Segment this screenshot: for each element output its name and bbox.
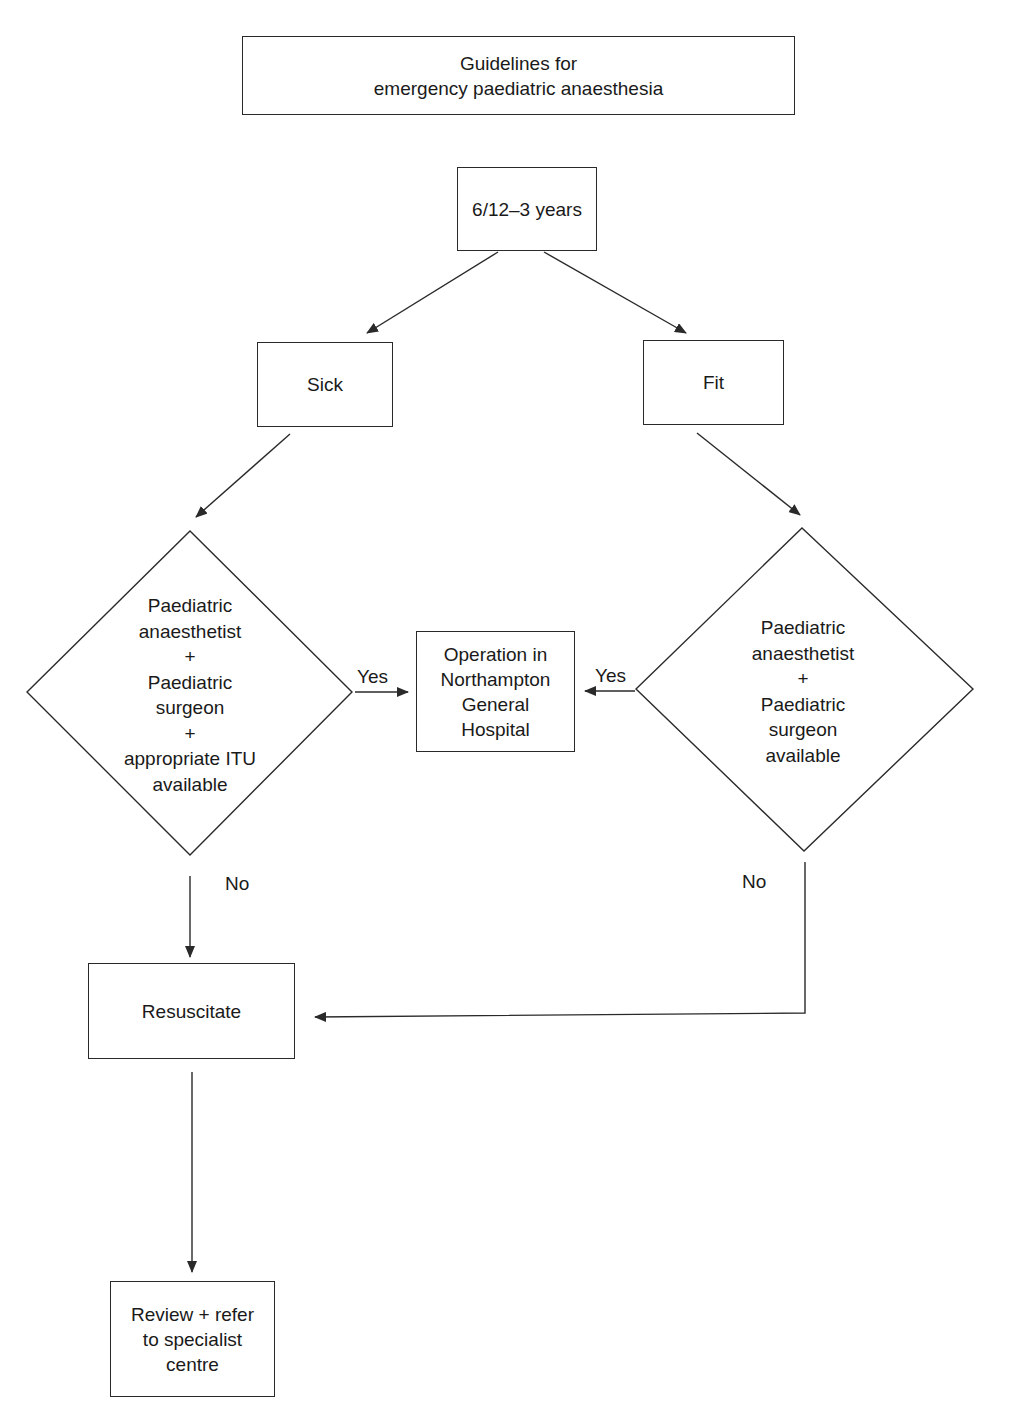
resuscitate-label: Resuscitate [142, 999, 241, 1024]
decision-sick-line: + [184, 721, 195, 747]
decision-sick-line: surgeon [156, 695, 225, 721]
sick-label: Sick [307, 372, 343, 397]
sick-node: Sick [257, 342, 393, 427]
review-line: centre [166, 1352, 219, 1377]
review-line: Review + refer [131, 1302, 254, 1327]
arrow-age-to-fit [544, 252, 686, 333]
decision-fit-line: Paediatric [761, 692, 846, 718]
decision-fit-line: anaesthetist [752, 641, 854, 667]
operation-line: Operation in [444, 642, 548, 667]
decision-sick-line: + [184, 644, 195, 670]
title-line-1: Guidelines for [460, 51, 577, 76]
decision-sick-line: Paediatric [148, 593, 233, 619]
fit-node: Fit [643, 340, 784, 425]
arrow-fit-no [315, 862, 805, 1017]
decision-sick-line: appropriate ITU [124, 746, 256, 772]
decision-fit-text: Paediatric anaesthetist + Paediatric sur… [703, 615, 903, 768]
resuscitate-node: Resuscitate [88, 963, 295, 1059]
operation-line: Northampton [441, 667, 551, 692]
decision-sick-line: anaesthetist [139, 619, 241, 645]
decision-fit-line: available [766, 743, 841, 769]
review-line: to specialist [143, 1327, 242, 1352]
arrow-age-to-sick [367, 252, 498, 333]
review-node: Review + refer to specialist centre [110, 1281, 275, 1397]
edge-label-fit-no: No [742, 871, 766, 893]
title-box: Guidelines for emergency paediatric anae… [242, 36, 795, 115]
title-line-2: emergency paediatric anaesthesia [374, 76, 663, 101]
decision-sick-line: Paediatric [148, 670, 233, 696]
age-label: 6/12–3 years [472, 197, 582, 222]
operation-node: Operation in Northampton General Hospita… [416, 631, 575, 752]
operation-line: General [462, 692, 530, 717]
age-node: 6/12–3 years [457, 167, 597, 251]
fit-label: Fit [703, 370, 724, 395]
arrow-sick-to-decision [196, 434, 290, 517]
edge-label-sick-no: No [225, 873, 249, 895]
arrow-fit-to-decision [697, 433, 800, 515]
decision-fit-line: + [797, 666, 808, 692]
decision-fit-line: Paediatric [761, 615, 846, 641]
decision-sick-text: Paediatric anaesthetist + Paediatric sur… [90, 593, 290, 797]
edge-label-sick-yes: Yes [357, 666, 388, 688]
edge-label-fit-yes: Yes [595, 665, 626, 687]
decision-sick-line: available [153, 772, 228, 798]
decision-fit-line: surgeon [769, 717, 838, 743]
operation-line: Hospital [461, 717, 530, 742]
